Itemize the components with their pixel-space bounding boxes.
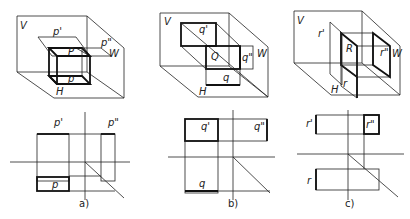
- figa-label-side: p": [100, 37, 112, 48]
- figa-label-w: W: [109, 48, 120, 59]
- figa-view-top: p: [51, 179, 58, 190]
- figc-label-front: r': [318, 28, 325, 39]
- figb-label-v: V: [164, 16, 172, 27]
- figc-label-h: H: [331, 84, 339, 95]
- figb-caption: b): [228, 198, 238, 209]
- figa-caption: a): [79, 198, 89, 209]
- figa-label-top: p: [67, 73, 74, 84]
- figc-label-main: R: [346, 43, 353, 54]
- figc-label-w: W: [392, 48, 403, 59]
- figa-label-main: P: [68, 46, 75, 57]
- figb-view-side: q": [254, 121, 265, 132]
- figc-label-v: V: [297, 15, 305, 26]
- plane-p-side: [76, 48, 111, 56]
- figb-view-front: q': [201, 121, 210, 132]
- figb-label-top: q: [223, 72, 229, 83]
- figb-label-w: W: [257, 48, 268, 59]
- projection-diagram: V H W p' p" P p p' p" p a) V H W q': [0, 0, 410, 219]
- figc-view-side: r": [366, 119, 375, 130]
- figa-view-front: p': [53, 117, 63, 128]
- figc-view-top: r: [307, 175, 312, 186]
- figb-label-side: q": [242, 52, 253, 63]
- figure-c-views: [297, 110, 404, 200]
- figc-label-side: r": [380, 47, 389, 58]
- figc-view-front: r': [306, 118, 313, 129]
- figb-label-main: Q: [211, 51, 219, 62]
- figa-label-v: V: [20, 20, 28, 31]
- figure-a-pictorial: [17, 16, 124, 98]
- figb-label-h: H: [199, 86, 207, 97]
- figb-label-front: q': [199, 24, 208, 35]
- figa-view-side: p": [107, 117, 119, 128]
- figa-label-h: H: [56, 86, 64, 97]
- v-plane: [17, 16, 87, 72]
- figb-view-top: q: [199, 178, 205, 189]
- figc-caption: c): [345, 198, 354, 209]
- figa-label-front: p': [52, 26, 62, 37]
- figc-label-top: r: [343, 78, 348, 89]
